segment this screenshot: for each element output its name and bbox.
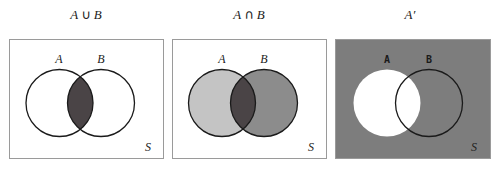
label-set-b: B [260,52,268,66]
label-universe: S [471,140,477,154]
label-set-a: A [54,52,63,66]
panel-title-union: A∪B [69,7,101,22]
panel-complement: A′ A B S [336,7,491,159]
label-set-a: A [217,52,226,66]
panel-intersection: A∩B A B S [173,7,327,159]
venn-diagram-figure: A∪B A B S A∩B A B S A′ A B S [0,0,494,169]
panel-title-intersection: A∩B [232,7,264,22]
panel-title-complement: A′ [404,7,416,22]
label-universe: S [145,140,151,154]
label-set-b: B [426,54,432,65]
panel-union: A∪B A B S [10,7,164,159]
label-set-a: A [384,54,390,65]
label-universe: S [308,140,314,154]
label-set-b: B [97,52,105,66]
set-a-region-unshaded [354,70,421,137]
